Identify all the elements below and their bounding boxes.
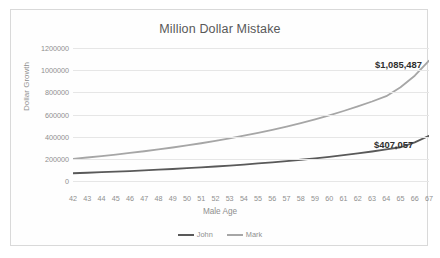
data-label-john: $407,057 [374, 139, 413, 150]
chart-legend: JohnMark [11, 230, 429, 239]
y-axis-tick-labels: 020000040000060000080000010000001200000 [11, 48, 69, 181]
legend-label: Mark [246, 230, 262, 239]
legend-swatch-mark-icon [227, 234, 243, 236]
chart-title: Million Dollar Mistake [11, 22, 429, 36]
y-axis-tick-label: 200000 [9, 154, 69, 163]
x-axis-tick-label: 67 [419, 194, 439, 203]
legend-item-mark[interactable]: Mark [227, 230, 262, 239]
chart-container: Million Dollar Mistake Dollar Growth 020… [10, 9, 428, 246]
legend-swatch-john-icon [178, 234, 194, 236]
gridline [73, 159, 429, 160]
x-axis-tick-labels: 4243444546474849505152535455565758596061… [73, 194, 429, 206]
x-axis-title: Male Age [11, 207, 429, 216]
legend-label: John [197, 230, 213, 239]
y-axis-tick-label: 400000 [9, 132, 69, 141]
y-axis-tick-label: 0 [9, 177, 69, 186]
gridline [73, 70, 429, 71]
data-label-mark: $1,085,487 [375, 59, 422, 70]
y-axis-tick-label: 1000000 [9, 66, 69, 75]
y-axis-tick-label: 600000 [9, 110, 69, 119]
gridline [73, 92, 429, 93]
gridline [73, 48, 429, 49]
legend-item-john[interactable]: John [178, 230, 213, 239]
gridline [73, 137, 429, 138]
gridline [73, 181, 429, 182]
gridline [73, 115, 429, 116]
y-axis-tick-label: 1200000 [9, 44, 69, 53]
y-axis-tick-label: 800000 [9, 88, 69, 97]
